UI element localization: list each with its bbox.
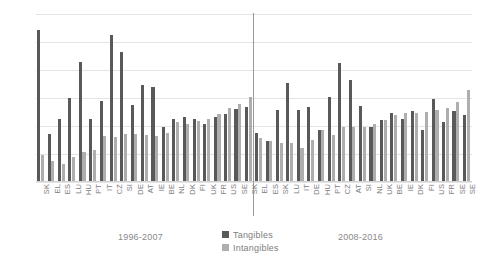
bar-intangibles — [238, 104, 241, 182]
bar-intangibles — [384, 120, 387, 182]
bar-group — [264, 14, 274, 182]
bar-group — [347, 14, 357, 182]
bar-group — [327, 14, 337, 182]
x-axis-tick-label: AT — [354, 184, 363, 193]
bar-tangibles — [421, 130, 424, 182]
x-axis-tick-label: EL — [260, 184, 269, 193]
x-axis-tick-label: AT — [146, 184, 155, 193]
bar-tangibles — [255, 133, 258, 182]
bar-tangibles — [203, 124, 206, 182]
x-axis-tick-label: HU — [84, 184, 93, 195]
x-axis-tick-label: UK — [385, 184, 394, 195]
bar-tangibles — [442, 122, 445, 182]
bar-group — [88, 14, 98, 182]
x-axis-tick-label: DK — [416, 184, 425, 195]
bar-group — [140, 14, 150, 182]
bar-intangibles — [311, 140, 314, 182]
x-axis-tick-label: IT — [105, 184, 114, 191]
bar-tangibles — [286, 83, 289, 182]
bar-group — [337, 14, 347, 182]
bar-intangibles — [207, 119, 210, 182]
bar-intangibles — [300, 148, 303, 182]
bar-intangibles — [280, 143, 283, 182]
investment-bar-chart: .00.05.10.15.20.25.30 SKELESLUHUPTITCZSI… — [0, 0, 489, 261]
bar-group — [296, 14, 306, 182]
bar-tangibles — [131, 105, 134, 182]
bar-tangibles — [37, 30, 40, 182]
bar-tangibles — [48, 134, 51, 182]
bar-tangibles — [245, 107, 248, 182]
bar-group — [181, 14, 191, 182]
legend-item-tangibles: Tangibles — [222, 228, 279, 241]
plot-area: .00.05.10.15.20.25.30 — [36, 14, 472, 182]
bar-intangibles — [134, 134, 137, 182]
bar-intangibles — [269, 141, 272, 182]
bar-intangibles — [114, 137, 117, 182]
bar-tangibles — [307, 107, 310, 182]
bar-intangibles — [363, 127, 366, 182]
x-axis-tick-label: SK — [250, 184, 259, 194]
bar-tangibles — [452, 111, 455, 182]
bar-group — [358, 14, 368, 182]
period-label-second: 2008-2016 — [338, 232, 383, 242]
legend-item-intangibles: Intangibles — [222, 241, 279, 254]
bar-group — [306, 14, 316, 182]
bar-group — [78, 14, 88, 182]
bar-tangibles — [183, 117, 186, 182]
bar-tangibles — [276, 110, 279, 182]
bar-tangibles — [338, 63, 341, 182]
bar-tangibles — [328, 97, 331, 182]
bar-intangibles — [352, 127, 355, 182]
x-axis-tick-label: DK — [188, 184, 197, 195]
bar-intangibles — [467, 90, 470, 182]
bar-group — [399, 14, 409, 182]
x-axis-tick-label: SE — [468, 184, 477, 194]
legend-label-tangibles: Tangibles — [233, 230, 273, 240]
bar-tangibles — [401, 119, 404, 182]
bar-tangibles — [214, 117, 217, 182]
bar-intangibles — [332, 135, 335, 182]
x-axis-tick-label: IE — [406, 184, 415, 191]
bar-tangibles — [79, 62, 82, 182]
period-label-first: 1996-2007 — [118, 232, 163, 242]
bar-intangibles — [228, 108, 231, 182]
bar-intangibles — [145, 135, 148, 182]
x-axis-tick-label: SK — [281, 184, 290, 194]
bar-group — [67, 14, 77, 182]
bar-tangibles — [120, 52, 123, 182]
bar-tangibles — [234, 109, 237, 182]
bar-group — [171, 14, 181, 182]
bar-tangibles — [68, 98, 71, 182]
x-axis-tick-label: FI — [427, 184, 436, 191]
bar-group — [161, 14, 171, 182]
x-axis-tick-label: IT — [302, 184, 311, 191]
bar-group — [410, 14, 420, 182]
bar-intangibles — [41, 155, 44, 182]
bar-tangibles — [463, 115, 466, 182]
bar-intangibles — [217, 114, 220, 182]
bar-group — [420, 14, 430, 182]
legend-label-intangibles: Intangibles — [233, 243, 279, 253]
bar-intangibles — [82, 152, 85, 182]
bar-tangibles — [318, 130, 321, 182]
bar-group — [368, 14, 378, 182]
x-axis-tick-label: FI — [198, 184, 207, 191]
bar-tangibles — [369, 127, 372, 182]
x-axis-tick-label: PT — [333, 184, 342, 194]
x-axis-tick-label: UK — [209, 184, 218, 195]
bar-group — [150, 14, 160, 182]
bar-tangibles — [100, 101, 103, 182]
bar-group — [36, 14, 46, 182]
bar-tangibles — [141, 85, 144, 182]
x-axis-tick-label: LU — [74, 184, 83, 194]
bar-intangibles — [176, 122, 179, 182]
x-axis-tick-label: CZ — [115, 184, 124, 194]
chart-legend: Tangibles Intangibles — [222, 228, 279, 254]
bar-intangibles — [259, 138, 262, 182]
bar-tangibles — [359, 106, 362, 182]
bar-intangibles — [62, 164, 65, 182]
bar-tangibles — [193, 119, 196, 182]
x-axis-tick-label: LU — [292, 184, 301, 194]
bar-tangibles — [89, 119, 92, 182]
x-axis-tick-label: SK — [42, 184, 51, 194]
